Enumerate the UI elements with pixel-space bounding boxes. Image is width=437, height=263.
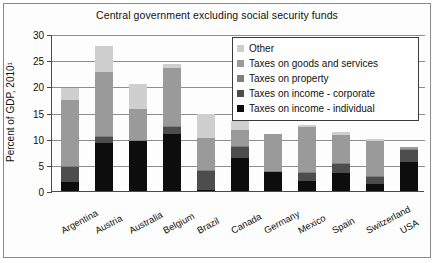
bar-canada[interactable] — [231, 121, 249, 191]
bar-segment — [197, 190, 215, 191]
y-tick-label-25: 25 — [33, 56, 44, 67]
bar-segment — [332, 173, 350, 191]
x-axis-label-germany: Germany — [262, 208, 301, 236]
bar-segment — [163, 68, 181, 126]
bar-segment — [197, 138, 215, 170]
bar-australia[interactable] — [129, 84, 147, 191]
bar-belgium[interactable] — [163, 64, 181, 191]
legend-label: Other — [249, 43, 274, 54]
legend-item[interactable]: Taxes on goods and services — [237, 56, 414, 71]
y-tick-label-15: 15 — [33, 108, 44, 119]
legend-item[interactable]: Taxes on income - corporate — [237, 86, 414, 101]
bar-segment — [231, 121, 249, 129]
bar-segment — [366, 141, 384, 176]
bar-segment — [298, 127, 316, 171]
bar-segment — [95, 143, 113, 191]
bar-germany[interactable] — [264, 134, 282, 191]
y-tick-10 — [47, 140, 52, 141]
bar-segment — [163, 134, 181, 191]
bar-usa[interactable] — [400, 147, 418, 191]
legend-swatch-icon — [237, 60, 244, 67]
bar-segment — [332, 135, 350, 163]
y-tick-20 — [47, 87, 52, 88]
bar-spain[interactable] — [332, 132, 350, 191]
y-tick-5 — [47, 166, 52, 167]
bar-switzerland[interactable] — [366, 139, 384, 191]
bar-segment — [366, 177, 384, 184]
page-title: Central government excluding social secu… — [4, 9, 430, 21]
bar-segment — [298, 173, 316, 181]
legend-swatch-icon — [237, 90, 244, 97]
x-axis-label-australia: Australia — [127, 209, 164, 236]
y-tick-label-5: 5 — [38, 160, 44, 171]
y-tick-0 — [47, 192, 52, 193]
bar-mexico[interactable] — [298, 125, 316, 191]
bar-austria[interactable] — [95, 46, 113, 191]
legend-label: Taxes on property — [249, 73, 329, 84]
legend-item[interactable]: Taxes on property — [237, 71, 414, 86]
y-tick-15 — [47, 114, 52, 115]
bar-segment — [129, 84, 147, 109]
bar-segment — [264, 172, 282, 191]
bar-argentina[interactable] — [61, 88, 79, 191]
bar-segment — [197, 114, 215, 138]
y-tick-label-0: 0 — [38, 187, 44, 198]
bar-segment — [400, 150, 418, 162]
y-tick-25 — [47, 61, 52, 62]
bar-segment — [332, 164, 350, 173]
bar-segment — [231, 147, 249, 157]
bar-segment — [264, 134, 282, 171]
bar-segment — [400, 162, 418, 191]
bar-segment — [95, 46, 113, 72]
legend-swatch-icon — [237, 45, 244, 52]
legend-item[interactable]: Other — [237, 41, 414, 56]
y-tick-30 — [47, 35, 52, 36]
bar-segment — [61, 167, 79, 182]
bar-segment — [129, 109, 147, 140]
gridline-30 — [52, 35, 425, 36]
bar-segment — [163, 127, 181, 134]
bar-segment — [61, 88, 79, 100]
legend-swatch-icon — [237, 105, 244, 112]
bar-segment — [129, 141, 147, 191]
chart-frame: Central government excluding social secu… — [3, 3, 431, 258]
x-axis-label-usa: USA — [398, 217, 420, 236]
x-axis-label-brazil: Brazil — [195, 215, 221, 236]
x-axis-label-canada: Canada — [229, 211, 263, 236]
bar-segment — [197, 171, 215, 190]
legend: OtherTaxes on goods and servicesTaxes on… — [232, 37, 419, 121]
bar-brazil[interactable] — [197, 114, 215, 191]
y-tick-label-20: 20 — [33, 82, 44, 93]
bar-segment — [61, 100, 79, 166]
x-axis-label-belgium: Belgium — [161, 210, 196, 236]
legend-label: Taxes on goods and services — [249, 58, 378, 69]
bar-segment — [298, 181, 316, 191]
bar-segment — [231, 158, 249, 191]
x-axis-label-spain: Spain — [330, 215, 356, 236]
x-axis-label-argentina: Argentina — [59, 207, 100, 236]
legend-swatch-icon — [237, 75, 244, 82]
bar-segment — [95, 72, 113, 136]
legend-label: Taxes on income - corporate — [249, 88, 375, 99]
bar-segment — [366, 184, 384, 191]
bar-segment — [61, 182, 79, 191]
y-tick-label-10: 10 — [33, 134, 44, 145]
legend-label: Taxes on income - individual — [249, 103, 375, 114]
y-tick-label-30: 30 — [33, 30, 44, 41]
y-axis-label: Percent of GDP, 2010¹ — [5, 62, 16, 162]
bar-segment — [231, 130, 249, 146]
legend-item[interactable]: Taxes on income - individual — [237, 101, 414, 116]
